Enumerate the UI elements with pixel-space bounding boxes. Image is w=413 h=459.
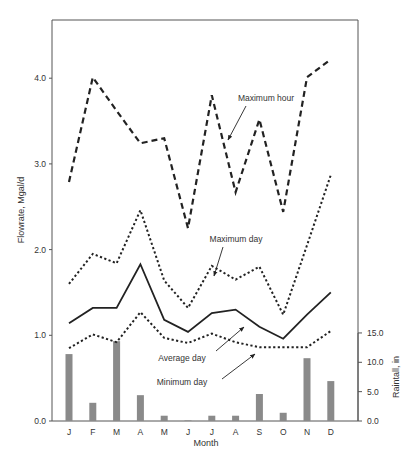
y-axis-label: Flowrate, Mgal/d bbox=[16, 177, 26, 244]
y-tick-label: 2.0 bbox=[34, 245, 46, 255]
annotation-label: Maximum hour bbox=[238, 93, 294, 103]
month-label: O bbox=[280, 427, 287, 437]
month-label: M bbox=[113, 427, 120, 437]
y-tick-label: 0.0 bbox=[34, 416, 46, 426]
right-axis-ticks: 0.05.010.015.0 bbox=[358, 328, 384, 426]
y2-axis-label: Raintall, in bbox=[391, 356, 401, 398]
rainfall-bar bbox=[232, 416, 239, 421]
rainfall-bar bbox=[327, 381, 334, 421]
month-label: M bbox=[161, 427, 168, 437]
month-label: J bbox=[210, 427, 214, 437]
y2-tick-label: 10.0 bbox=[367, 357, 384, 367]
series-line bbox=[69, 264, 331, 339]
rainfall-bar bbox=[256, 394, 263, 421]
month-ticks: JFMAMJJASOND bbox=[67, 427, 334, 437]
rainfall-bar bbox=[89, 403, 96, 421]
annotation-arrow bbox=[214, 247, 223, 276]
flowrate-rainfall-chart: 0.01.02.03.04.0 0.05.010.015.0 JFMAMJJAS… bbox=[0, 0, 413, 459]
rainfall-bar bbox=[137, 395, 144, 421]
x-axis-label: Month bbox=[193, 438, 218, 448]
annotation-arrow bbox=[228, 106, 246, 140]
month-label: A bbox=[138, 427, 144, 437]
y-tick-label: 1.0 bbox=[34, 330, 46, 340]
series-annotations: Maximum hourMaximum dayAverage dayMinimu… bbox=[157, 93, 295, 387]
y-tick-label: 4.0 bbox=[34, 73, 46, 83]
rainfall-bar bbox=[113, 341, 120, 421]
rainfall-bar bbox=[208, 416, 215, 421]
rainfall-bar bbox=[185, 420, 192, 421]
month-label: N bbox=[304, 427, 310, 437]
rainfall-bar bbox=[161, 416, 168, 421]
annotation-label: Maximum day bbox=[210, 234, 264, 244]
annotation-arrow bbox=[216, 327, 244, 351]
rainfall-bar bbox=[280, 413, 287, 421]
month-label: J bbox=[67, 427, 71, 437]
month-label: J bbox=[186, 427, 190, 437]
y-tick-label: 3.0 bbox=[34, 159, 46, 169]
month-label: D bbox=[328, 427, 334, 437]
month-label: A bbox=[233, 427, 239, 437]
left-axis-ticks: 0.01.02.03.04.0 bbox=[34, 73, 52, 426]
series-line bbox=[69, 59, 331, 228]
y2-tick-label: 15.0 bbox=[367, 328, 384, 338]
y2-tick-label: 0.0 bbox=[367, 416, 379, 426]
rainfall-bar bbox=[66, 354, 73, 421]
y2-tick-label: 5.0 bbox=[367, 387, 379, 397]
month-label: F bbox=[90, 427, 95, 437]
rainfall-bar bbox=[304, 358, 311, 421]
month-label: S bbox=[257, 427, 263, 437]
annotation-label: Minimum day bbox=[157, 377, 208, 387]
annotation-arrow bbox=[222, 354, 255, 379]
series-line bbox=[69, 175, 331, 315]
annotation-label: Average day bbox=[158, 353, 206, 363]
